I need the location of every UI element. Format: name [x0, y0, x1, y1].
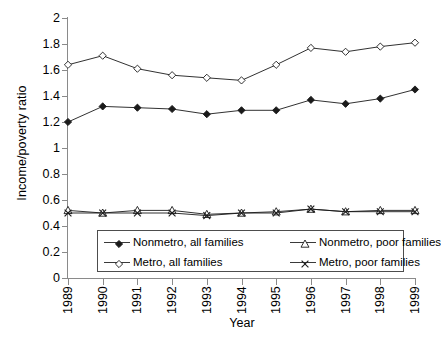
series-line — [68, 43, 415, 81]
marker-filled-diamond — [411, 86, 418, 93]
y-tick-label: 0.4 — [20, 220, 60, 232]
x-tick — [311, 279, 312, 285]
x-tick — [276, 279, 277, 285]
x-tick-label: 1997 — [339, 286, 353, 332]
marker-open-diamond — [64, 61, 71, 68]
y-tick-label: 0.8 — [20, 168, 60, 180]
marker-filled-diamond — [273, 107, 280, 114]
x-tick-label: 1992 — [165, 286, 179, 332]
series-line — [68, 90, 415, 123]
marker-open-diamond — [342, 48, 349, 55]
y-tick-label: 1.4 — [20, 90, 60, 102]
marker-open-diamond — [99, 52, 106, 59]
legend-marker-filled-diamond-icon — [104, 236, 130, 248]
marker-filled-diamond — [238, 107, 245, 114]
marker-open-diamond — [411, 39, 418, 46]
legend-label: Nonmetro, all families — [133, 236, 244, 248]
x-tick — [346, 279, 347, 285]
y-tick-label: 0.6 — [20, 194, 60, 206]
x-tick-label: 1990 — [96, 286, 110, 332]
x-tick — [207, 279, 208, 285]
legend-item: Nonmetro, all families — [104, 232, 290, 252]
x-tick — [172, 279, 173, 285]
marker-cross-x — [302, 261, 309, 268]
marker-filled-diamond — [377, 95, 384, 102]
y-tick-label: 2 — [20, 12, 60, 24]
legend-item: Metro, all families — [104, 252, 290, 272]
x-tick-label: 1994 — [235, 286, 249, 332]
marker-filled-diamond — [169, 105, 176, 112]
marker-filled-diamond — [307, 96, 314, 103]
legend-item: Metro, poor families — [290, 252, 441, 272]
chart-figure: Income/poverty ratio Year 00.20.40.60.81… — [0, 0, 441, 342]
x-tick-label: 1989 — [61, 286, 75, 332]
marker-open-diamond — [115, 260, 122, 267]
marker-filled-diamond — [203, 111, 210, 118]
x-tick — [415, 279, 416, 285]
marker-filled-diamond — [99, 103, 106, 110]
marker-open-diamond — [273, 61, 280, 68]
legend-marker-cross-x-icon — [290, 256, 316, 268]
marker-filled-diamond — [115, 240, 122, 247]
x-tick-label: 1995 — [269, 286, 283, 332]
y-tick-label: 0 — [20, 272, 60, 284]
x-tick — [380, 279, 381, 285]
y-tick-label: 1.2 — [20, 116, 60, 128]
chart-legend: Nonmetro, all familiesNonmetro, poor fam… — [97, 230, 404, 272]
marker-filled-diamond — [64, 118, 71, 125]
legend-marker-open-triangle-icon — [290, 236, 316, 248]
y-tick-label: 0.2 — [20, 246, 60, 258]
x-tick — [137, 279, 138, 285]
series-1 — [64, 39, 418, 84]
legend-label: Metro, all families — [133, 256, 222, 268]
series-3 — [65, 206, 419, 219]
x-tick-label: 1996 — [304, 286, 318, 332]
marker-open-triangle — [301, 240, 309, 247]
marker-open-diamond — [134, 65, 141, 72]
marker-open-diamond — [169, 72, 176, 79]
x-tick-label: 1991 — [130, 286, 144, 332]
legend-label: Metro, poor families — [319, 256, 420, 268]
y-tick-label: 1.6 — [20, 64, 60, 76]
marker-filled-diamond — [342, 100, 349, 107]
marker-open-diamond — [203, 74, 210, 81]
x-tick-label: 1998 — [373, 286, 387, 332]
series-0 — [64, 86, 418, 126]
legend-item: Nonmetro, poor families — [290, 232, 441, 252]
x-tick — [68, 279, 69, 285]
x-tick — [103, 279, 104, 285]
y-tick-label: 1 — [20, 142, 60, 154]
x-tick-label: 1999 — [408, 286, 422, 332]
x-tick-label: 1993 — [200, 286, 214, 332]
marker-filled-diamond — [134, 104, 141, 111]
x-tick — [242, 279, 243, 285]
marker-open-diamond — [238, 77, 245, 84]
marker-open-diamond — [377, 43, 384, 50]
legend-label: Nonmetro, poor families — [319, 236, 441, 248]
marker-open-diamond — [307, 44, 314, 51]
legend-marker-open-diamond-icon — [104, 256, 130, 268]
y-tick-label: 1.8 — [20, 38, 60, 50]
